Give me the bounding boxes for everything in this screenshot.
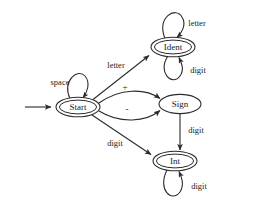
edge-ident-self-digit [164, 56, 182, 80]
edge-label-digit-start-int: digit [107, 138, 123, 148]
state-machine-svg: Start Ident Sign Int space letter letter… [0, 0, 256, 209]
edge-label-letter-start-ident: letter [107, 60, 125, 70]
node-start[interactable]: Start [56, 97, 100, 117]
node-ident-label: Ident [164, 42, 183, 52]
edge-label-letter-ident-self: letter [188, 18, 206, 28]
edge-start-int-digit [92, 115, 151, 155]
edge-start-sign-minus [99, 111, 160, 120]
edge-int-self-digit [164, 170, 183, 196]
node-sign[interactable]: Sign [159, 94, 201, 113]
diagram-canvas: Start Ident Sign Int space letter letter… [0, 0, 256, 209]
edge-label-digit-ident-self: digit [190, 65, 206, 75]
node-int[interactable]: Int [153, 151, 197, 171]
edge-label-minus: - [126, 104, 129, 114]
edge-label-space: space [51, 77, 70, 87]
edge-label-plus: + [122, 82, 127, 92]
edge-start-sign-plus [99, 91, 160, 103]
edge-start-self-space [68, 73, 88, 98]
node-int-label: Int [170, 156, 180, 166]
edge-label-digit-int-self: digit [191, 181, 207, 191]
node-ident[interactable]: Ident [151, 37, 195, 57]
node-start-label: Start [70, 102, 87, 112]
node-sign-label: Sign [172, 99, 189, 109]
edge-ident-self-letter [163, 13, 184, 39]
edge-label-digit-sign-int: digit [188, 125, 204, 135]
